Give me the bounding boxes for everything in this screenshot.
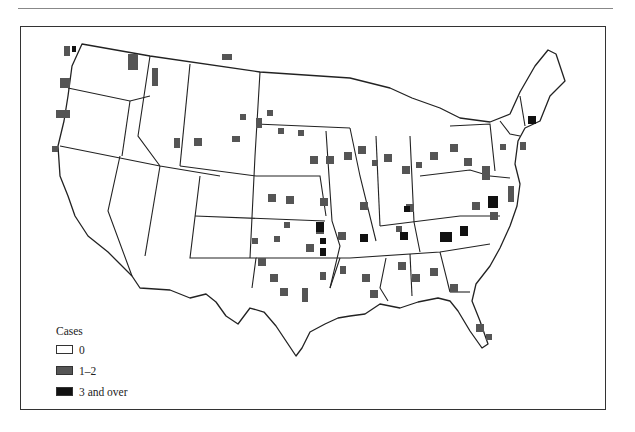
legend-item-3-plus: 3 and over <box>56 383 128 400</box>
legend-label: 1–2 <box>79 365 96 377</box>
legend-label: 0 <box>79 344 85 356</box>
legend-item-0: 0 <box>56 341 128 358</box>
legend-label: 3 and over <box>79 386 128 398</box>
swatch-gray <box>56 366 73 375</box>
legend-title: Cases <box>56 325 128 337</box>
swatch-white <box>56 345 73 354</box>
top-rule <box>18 8 613 9</box>
legend: Cases 0 1–2 3 and over <box>56 325 128 404</box>
swatch-black <box>56 387 73 396</box>
legend-item-1-2: 1–2 <box>56 362 128 379</box>
